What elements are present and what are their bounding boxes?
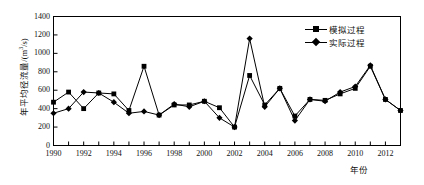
data-point-simulated (81, 106, 86, 111)
data-point-actual (247, 36, 253, 42)
legend: 模拟过程 实际过程 (305, 23, 365, 49)
data-point-simulated (51, 100, 56, 105)
data-point-simulated (111, 92, 116, 97)
data-point-actual (50, 110, 56, 116)
legend-label-actual: 实际过程 (329, 36, 365, 48)
data-point-simulated (142, 64, 147, 69)
data-point-simulated (217, 105, 222, 110)
legend-label-simulated: 模拟过程 (329, 23, 365, 35)
legend-marker-diamond-icon (305, 37, 327, 47)
data-point-simulated (66, 90, 71, 95)
data-point-simulated (247, 73, 252, 78)
runoff-line-chart: 年平均径流量/(m3/s) 0200400600800100012001400 … (0, 0, 424, 185)
legend-marker-square-icon (305, 24, 327, 34)
legend-item-actual: 实际过程 (305, 36, 365, 48)
data-point-actual (141, 108, 147, 114)
legend-item-simulated: 模拟过程 (305, 23, 365, 35)
series-line-actual (54, 39, 401, 127)
data-point-actual (292, 118, 298, 124)
